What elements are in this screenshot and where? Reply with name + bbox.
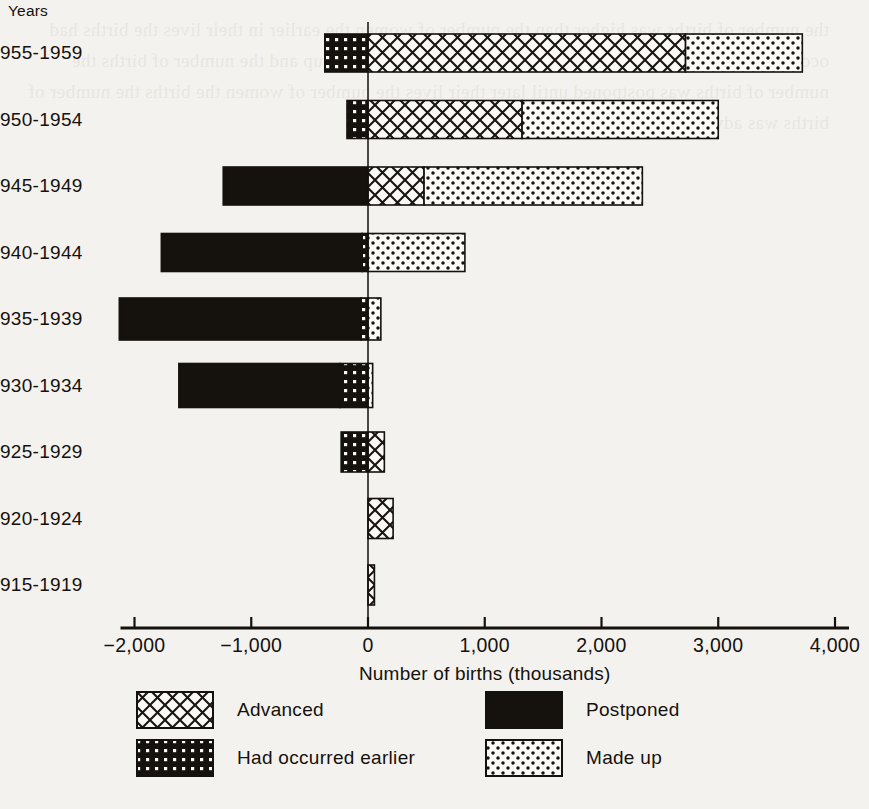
bar-segment-had-occurred-earlier: 1955-1959 — Had occurred earlier: -370 <box>325 34 368 72</box>
bar-segment-postponed: 1930-1934 — Postponed: -1380 <box>179 364 340 408</box>
bar-segment-advanced: 1920-1924 — Advanced: 215 <box>368 499 393 539</box>
bar-segment-had-occurred-earlier: 1940-1944 — Had occurred earlier: -50 <box>362 234 368 272</box>
bar-segment-had-occurred-earlier: 1925-1929 — Had occurred earlier: -230 <box>341 432 368 472</box>
x-tick-label: 4,000 <box>810 634 860 657</box>
x-tick-label: 1,000 <box>460 634 510 657</box>
y-axis-title: Years <box>8 2 48 20</box>
bar-segment-made-up: 1935-1939 — Made up: 110 <box>368 298 381 340</box>
bar-segment-advanced: 1945-1949 — Advanced: 480 <box>368 167 424 205</box>
legend-label: Postponed <box>586 699 680 721</box>
bar-segment-advanced: 1925-1929 — Advanced: 140 <box>368 432 384 472</box>
y-tick-label: 940-1944 <box>0 242 83 264</box>
y-tick-label: 955-1959 <box>0 42 83 64</box>
y-tick-label: 950-1954 <box>0 109 83 131</box>
bar-segment-made-up: 1950-1954 — Made up: 1680 <box>522 101 718 139</box>
bar-segment-postponed: 1940-1944 — Postponed: -1720 <box>161 234 362 272</box>
x-tick-label: −1,000 <box>220 634 282 657</box>
bar-segment-advanced: 1955-1959 — Advanced: 2720 <box>368 34 686 72</box>
bar-segment-made-up: 1955-1959 — Made up: 1000 <box>686 34 803 72</box>
bar-segment-postponed: 1935-1939 — Postponed: -2070 <box>119 298 361 340</box>
chart-canvas: 1955-1959 — Had occurred earlier: -37019… <box>0 0 869 809</box>
x-tick-label: 0 <box>362 634 373 657</box>
x-tick-label: 2,000 <box>576 634 626 657</box>
bar-segment-advanced: 1915-1919 — Advanced: 55 <box>368 565 374 605</box>
legend-label: Made up <box>586 747 662 769</box>
legend-swatch <box>137 692 213 728</box>
legend-label: Advanced <box>237 699 324 721</box>
x-axis-title: Number of births (thousands) <box>359 663 611 685</box>
y-tick-label: 925-1929 <box>0 441 83 463</box>
legend-swatch <box>486 740 562 776</box>
y-tick-label: 915-1919 <box>0 574 83 596</box>
legend-swatch <box>486 692 562 728</box>
y-tick-label: 945-1949 <box>0 175 83 197</box>
x-tick-label: −2,000 <box>104 634 166 657</box>
x-tick-label: 3,000 <box>693 634 743 657</box>
y-tick-label: 935-1939 <box>0 308 83 330</box>
legend-label: Had occurred earlier <box>237 747 415 769</box>
bar-segment-made-up: 1940-1944 — Made up: 830 <box>368 234 465 272</box>
bar-segment-postponed: 1945-1949 — Postponed: -1240 <box>223 167 368 205</box>
y-tick-label: 920-1924 <box>0 508 83 530</box>
y-tick-label: 930-1934 <box>0 375 83 397</box>
bar-segment-had-occurred-earlier: 1930-1934 — Had occurred earlier: -240 <box>340 364 368 408</box>
chart-svg: 1955-1959 — Had occurred earlier: -37019… <box>0 0 869 809</box>
legend-swatch <box>137 740 213 776</box>
bar-segment-had-occurred-earlier: 1935-1939 — Had occurred earlier: -60 <box>361 298 368 340</box>
bar-segment-had-occurred-earlier: 1950-1954 — Had occurred earlier: -180 <box>347 101 368 139</box>
bar-segment-advanced: 1950-1954 — Advanced: 1320 <box>368 101 522 139</box>
bar-segment-made-up: 1945-1949 — Made up: 1870 <box>424 167 642 205</box>
